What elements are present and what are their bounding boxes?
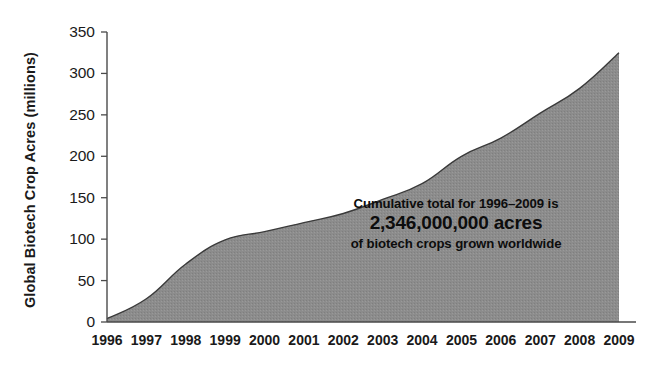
x-axis-tick-label: 2009 xyxy=(594,333,644,347)
cumulative-total-annotation: Cumulative total for 1996–2009 is 2,346,… xyxy=(306,196,606,251)
chart-container: Global Biotech Crop Acres (millions) 050… xyxy=(0,0,649,371)
annotation-line-2: 2,346,000,000 acres xyxy=(306,212,606,234)
area-fill xyxy=(107,53,619,322)
annotation-line-3: of biotech crops grown worldwide xyxy=(306,236,606,251)
area-plot xyxy=(0,0,649,371)
annotation-line-1: Cumulative total for 1996–2009 is xyxy=(306,196,606,211)
